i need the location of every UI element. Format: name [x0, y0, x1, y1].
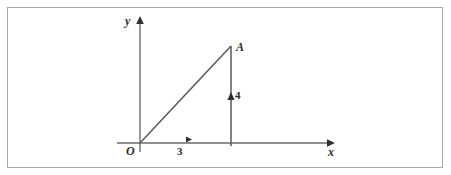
base-measure-label: 3	[177, 146, 183, 157]
figure-root: y x O A 3 4	[0, 0, 451, 175]
point-a-label: A	[236, 41, 244, 53]
y-axis-arrowhead-icon	[136, 16, 144, 24]
origin-label: O	[126, 145, 135, 157]
height-measure-label: 4	[235, 90, 241, 101]
y-axis-label: y	[125, 15, 130, 27]
height-arrowhead-icon	[227, 92, 234, 100]
coordinate-diagram	[0, 0, 451, 175]
x-axis-label: x	[328, 146, 334, 158]
base-segment-arrowhead-icon	[186, 136, 192, 142]
hypotenuse-segment	[140, 46, 231, 143]
